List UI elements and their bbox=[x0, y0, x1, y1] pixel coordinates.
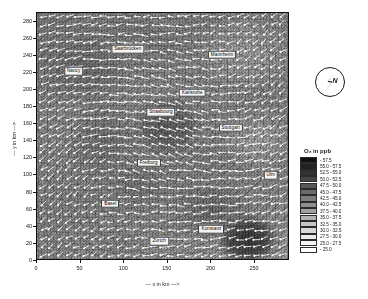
wind-vector-origin bbox=[244, 203, 246, 205]
wind-vector-origin bbox=[83, 247, 85, 249]
wind-vector-origin bbox=[100, 255, 102, 257]
wind-vector-origin bbox=[261, 76, 263, 78]
map-plot-area: SaarbrückenMannheimNancyKarlsruheStrasbo… bbox=[36, 12, 289, 260]
wind-vector-origin bbox=[117, 144, 119, 146]
wind-vector-origin bbox=[134, 15, 136, 17]
wind-vector-origin bbox=[39, 160, 41, 162]
wind-vector-origin bbox=[202, 196, 204, 198]
wind-vector-origin bbox=[211, 203, 213, 205]
wind-vector-origin bbox=[124, 17, 126, 19]
wind-vector-origin bbox=[99, 33, 101, 35]
wind-vector-origin bbox=[184, 169, 186, 171]
wind-vector-origin bbox=[48, 145, 50, 147]
wind-vector-origin bbox=[108, 50, 110, 52]
wind-vector-origin bbox=[185, 15, 187, 17]
wind-vector-origin bbox=[261, 51, 263, 53]
wind-vector-origin bbox=[245, 32, 247, 34]
wind-vector-origin bbox=[262, 25, 264, 27]
x-axis-tick-label: 250 bbox=[250, 265, 259, 271]
wind-vector bbox=[118, 102, 126, 103]
wind-vector-origin bbox=[219, 25, 221, 27]
wind-vector-origin bbox=[109, 94, 111, 96]
wind-vector-origin bbox=[125, 238, 127, 240]
wind-vector bbox=[143, 145, 150, 148]
wind-vector-origin bbox=[109, 110, 111, 112]
wind-vector-origin bbox=[211, 85, 213, 87]
wind-vector-origin bbox=[142, 179, 144, 181]
wind-vector-origin bbox=[203, 186, 205, 188]
wind-vector-origin bbox=[150, 134, 152, 136]
city-label: Nancy bbox=[64, 67, 84, 76]
wind-vector-origin bbox=[254, 109, 256, 111]
wind-vector-origin bbox=[56, 17, 58, 19]
wind-vector-origin bbox=[108, 58, 110, 60]
wind-vector-origin bbox=[64, 213, 66, 215]
wind-vector-origin bbox=[261, 230, 263, 232]
wind-vector-origin bbox=[117, 153, 119, 155]
wind-vector bbox=[108, 101, 116, 102]
wind-vector-origin bbox=[48, 118, 50, 120]
wind-vector-origin bbox=[186, 162, 188, 164]
y-axis-tick bbox=[33, 260, 36, 261]
wind-vector-origin bbox=[90, 161, 92, 163]
wind-vector bbox=[194, 161, 202, 162]
wind-vector-origin bbox=[82, 24, 84, 26]
wind-vector-origin bbox=[237, 42, 239, 44]
wind-vector-origin bbox=[194, 255, 196, 257]
wind-vector-origin bbox=[244, 186, 246, 188]
wind-vector-origin bbox=[270, 75, 272, 77]
wind-vector-origin bbox=[39, 151, 41, 153]
wind-vector-origin bbox=[245, 153, 247, 155]
wind-vector-origin bbox=[91, 238, 93, 240]
wind-vector-origin bbox=[159, 67, 161, 69]
wind-vector-origin bbox=[134, 204, 136, 206]
city-label: Strasbourg bbox=[146, 108, 175, 117]
wind-vector-origin bbox=[227, 143, 229, 145]
y-axis-tick-label: 200 bbox=[12, 86, 32, 92]
wind-vector-origin bbox=[228, 118, 230, 120]
wind-vector-origin bbox=[40, 49, 42, 51]
wind-vector-origin bbox=[184, 117, 186, 119]
wind-vector-origin bbox=[194, 247, 196, 249]
wind-vector-origin bbox=[125, 179, 127, 181]
wind-vector bbox=[143, 77, 151, 79]
wind-vector-origin bbox=[227, 229, 229, 231]
wind-vector-origin bbox=[261, 102, 263, 104]
wind-vector-origin bbox=[278, 222, 280, 224]
wind-vector-origin bbox=[253, 119, 255, 121]
wind-vector-origin bbox=[176, 195, 178, 197]
wind-vector-origin bbox=[252, 43, 254, 45]
wind-vector-origin bbox=[135, 41, 137, 43]
wind-vector-origin bbox=[169, 204, 171, 206]
wind-vector-origin bbox=[40, 194, 42, 196]
wind-vector-origin bbox=[91, 58, 93, 60]
wind-vector-origin bbox=[244, 144, 246, 146]
wind-vector-origin bbox=[56, 144, 58, 146]
wind-vector bbox=[281, 107, 288, 111]
wind-vector-origin bbox=[74, 213, 76, 215]
y-axis-tick-label: 220 bbox=[12, 69, 32, 75]
wind-vector-origin bbox=[159, 246, 161, 248]
wind-vector-origin bbox=[202, 68, 204, 70]
wind-vector-origin bbox=[66, 136, 68, 138]
wind-vector-origin bbox=[133, 33, 135, 35]
wind-vector-origin bbox=[117, 58, 119, 60]
wind-vector-origin bbox=[254, 94, 256, 96]
wind-vector-origin bbox=[73, 92, 75, 94]
wind-vector-origin bbox=[74, 109, 76, 111]
wind-vector bbox=[74, 56, 81, 59]
wind-vector-origin bbox=[142, 203, 144, 205]
wind-vector-origin bbox=[66, 25, 68, 27]
wind-vector-origin bbox=[236, 33, 238, 35]
wind-vector-origin bbox=[211, 41, 213, 43]
wind-vector-origin bbox=[252, 143, 254, 145]
wind-vector-origin bbox=[220, 93, 222, 95]
legend-entry-label: 30.0 - 32.5 bbox=[320, 228, 341, 233]
wind-vector-origin bbox=[261, 238, 263, 240]
wind-vector-origin bbox=[169, 68, 171, 70]
wind-vector-origin bbox=[40, 68, 42, 70]
wind-vector bbox=[273, 115, 280, 119]
wind-vector-origin bbox=[100, 221, 102, 223]
wind-vector-origin bbox=[169, 169, 171, 171]
wind-vector-origin bbox=[143, 100, 145, 102]
